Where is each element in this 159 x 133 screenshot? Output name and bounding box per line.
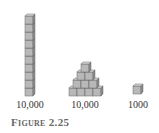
- rod-label: 10,000: [8, 99, 52, 110]
- cube-label: 1000: [116, 99, 159, 110]
- single-cube: [133, 84, 143, 94]
- pyramid-of-cubes: [69, 62, 103, 96]
- pyramid-label: 10,000: [63, 99, 107, 110]
- figure-caption: Figure 2.25: [11, 116, 69, 128]
- rod-of-cubes: [25, 14, 35, 96]
- block-diagram: [0, 0, 159, 100]
